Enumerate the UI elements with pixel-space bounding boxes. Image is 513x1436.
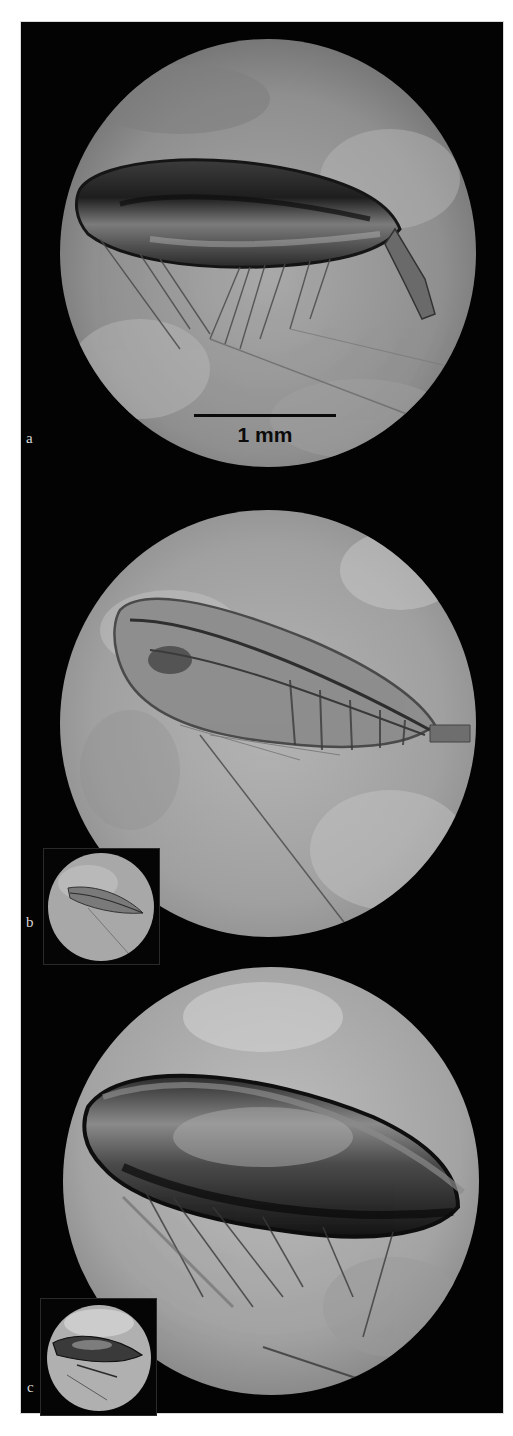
panel-label-c: c (27, 1380, 34, 1395)
scale-bar (194, 414, 336, 417)
panel-label-a: a (26, 431, 33, 446)
panel-b: b (21, 492, 503, 962)
figure-frame: 1 mm a (21, 22, 503, 1413)
panel-c: c (21, 962, 503, 1413)
micrograph-a (60, 39, 476, 467)
copepod-image-a (60, 39, 476, 467)
inset-micrograph-b (48, 853, 154, 961)
inset-copepod-image-b (48, 853, 154, 961)
inset-micrograph-c (47, 1305, 151, 1411)
panel-a: 1 mm a (21, 22, 503, 492)
scale-bar-label: 1 mm (194, 424, 336, 445)
inset-copepod-image-c (47, 1305, 151, 1411)
panel-label-b: b (26, 915, 34, 930)
inset-b (43, 848, 160, 965)
inset-c (40, 1298, 157, 1416)
